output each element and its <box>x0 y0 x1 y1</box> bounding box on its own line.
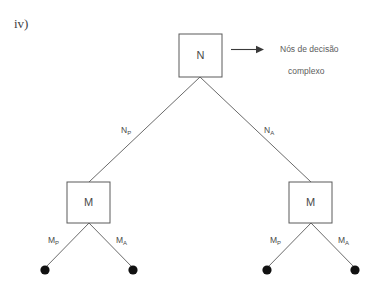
edge-label-right-mid-left-sub: P <box>277 240 281 246</box>
edge-label-right-mid-right: MA <box>338 235 349 246</box>
edge-label-left-mid-left-sub: P <box>55 240 59 246</box>
leaf-node-dot[interactable] <box>40 265 49 274</box>
edge-label-right-mid-right-base: M <box>338 235 345 245</box>
figure-enumeration-label: iv) <box>14 16 28 31</box>
edge-label-root-right: NA <box>264 125 274 136</box>
edge-label-right-mid-left-base: M <box>270 235 277 245</box>
node-root-label: N <box>197 49 205 61</box>
edge-right-mid-to-leaf-3 <box>267 223 311 268</box>
edge-label-left-mid-right-sub: A <box>123 240 127 246</box>
right-arrow-icon <box>231 46 264 53</box>
edge-root-to-right-mid <box>200 77 311 182</box>
edge-label-root-left-sub: P <box>127 130 131 136</box>
edge-left-mid-to-leaf-1 <box>45 223 89 268</box>
edge-label-right-mid-right-sub: A <box>345 240 349 246</box>
node-right-mid-label: M <box>306 196 315 208</box>
edge-label-right-mid-left: MP <box>270 235 281 246</box>
leaf-node-dot[interactable] <box>262 265 271 274</box>
node-left-mid-label: M <box>84 196 93 208</box>
decision-tree-diagram: iv) N M M NP NA MP MA <box>0 0 370 287</box>
edge-label-left-mid-right-base: M <box>116 235 123 245</box>
annotation-text-line1: Nós de decisão <box>280 44 339 54</box>
edge-label-left-mid-left: MP <box>48 235 59 246</box>
edge-label-root-left: NP <box>121 125 131 136</box>
tree-svg-canvas: iv) N M M NP NA MP MA <box>0 0 370 287</box>
leaf-node-dot[interactable] <box>350 265 359 274</box>
edge-label-left-mid-left-base: M <box>48 235 55 245</box>
annotation-text-line2: complexo <box>288 66 325 76</box>
edge-root-to-left-mid <box>89 77 200 182</box>
edge-label-root-right-sub: A <box>270 130 274 136</box>
leaf-node-dot[interactable] <box>128 265 137 274</box>
edge-label-left-mid-right: MA <box>116 235 127 246</box>
